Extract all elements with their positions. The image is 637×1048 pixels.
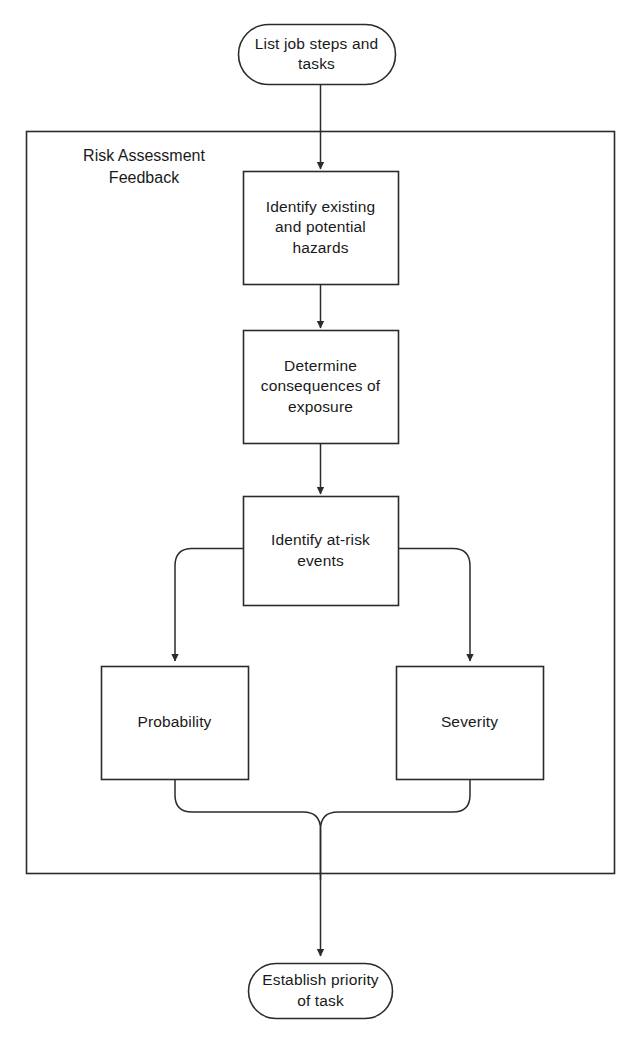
node-end-shape: [249, 964, 393, 1019]
connector-probability-to-merge: [175, 780, 321, 957]
connector-severity-to-merge: [321, 780, 471, 881]
node-severity-shape: [397, 667, 544, 780]
node-identify-hazards-shape: [244, 172, 399, 285]
node-probability-shape: [102, 667, 249, 780]
node-start-shape: [239, 25, 396, 85]
node-identify-events-shape: [244, 497, 399, 606]
risk-assessment-flowchart: Risk Assessment Feedback List job steps …: [0, 0, 637, 1048]
connector-events-to-probability: [175, 549, 244, 662]
node-determine-consequences-shape: [244, 331, 399, 444]
connector-events-to-severity: [399, 549, 471, 662]
risk-assessment-feedback-label: Risk Assessment Feedback: [44, 145, 244, 189]
